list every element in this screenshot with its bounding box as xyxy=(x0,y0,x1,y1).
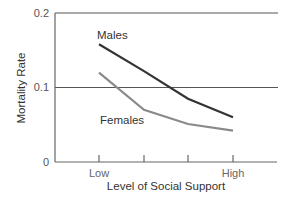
x-tick-label-high: High xyxy=(222,167,245,179)
x-tick-label-low: Low xyxy=(89,167,109,179)
series-label-females: Females xyxy=(100,114,144,126)
series-line-males xyxy=(99,44,233,117)
line-chart: 0.2 0.1 0 Low High Level of Social Suppo… xyxy=(0,0,292,204)
x-ticks xyxy=(99,155,233,162)
series-label-males: Males xyxy=(97,29,128,41)
y-tick-label: 0.1 xyxy=(34,81,49,93)
y-axis-title: Mortality Rate xyxy=(15,53,27,124)
y-tick-label: 0 xyxy=(43,156,49,168)
y-tick-label: 0.2 xyxy=(34,7,49,19)
x-axis-title: Level of Social Support xyxy=(107,180,226,192)
